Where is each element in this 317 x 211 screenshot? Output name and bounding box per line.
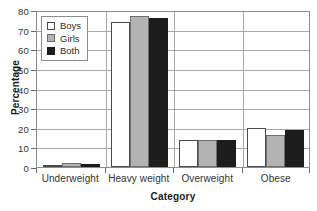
- x-axis-tick-labels: UnderweightHeavy weightOverweightObese: [36, 173, 310, 184]
- y-axis-tick-label: 70: [18, 25, 29, 36]
- bar: [149, 18, 168, 167]
- bar: [81, 164, 100, 167]
- bar: [266, 135, 285, 167]
- x-axis-tick-label: Obese: [242, 173, 311, 184]
- y-axis-tick-label: 20: [18, 123, 29, 134]
- bar-group: [241, 12, 309, 167]
- y-axis-tick-labels: 01020304050607080: [0, 11, 36, 168]
- x-axis-tick-label: Underweight: [36, 173, 105, 184]
- legend-swatch-icon: [47, 47, 55, 55]
- bar: [285, 130, 304, 167]
- legend-item: Girls: [47, 34, 81, 44]
- y-axis-tick-label: 50: [18, 64, 29, 75]
- bar-group: [105, 12, 173, 167]
- chart-legend: BoysGirlsBoth: [41, 16, 88, 61]
- y-axis-tick-label: 0: [24, 163, 29, 174]
- x-axis-title: Category: [36, 191, 310, 202]
- y-axis-tick-label: 10: [18, 143, 29, 154]
- bar: [43, 165, 62, 167]
- bar-chart: Percentage 01020304050607080 Underweight…: [0, 0, 317, 211]
- legend-item: Boys: [47, 21, 81, 31]
- bar: [111, 22, 130, 167]
- y-axis-tick-label: 40: [18, 84, 29, 95]
- bar: [198, 140, 217, 167]
- legend-label: Boys: [60, 21, 81, 31]
- x-axis-tick-label: Overweight: [173, 173, 242, 184]
- bar: [62, 163, 81, 167]
- legend-label: Girls: [60, 34, 80, 44]
- bar: [179, 140, 198, 167]
- bar-group: [173, 12, 241, 167]
- legend-swatch-icon: [47, 22, 55, 30]
- y-axis-tick-label: 30: [18, 104, 29, 115]
- x-axis-tick-label: Heavy weight: [105, 173, 174, 184]
- legend-label: Both: [60, 46, 80, 56]
- legend-item: Both: [47, 46, 81, 56]
- y-axis-tick-label: 60: [18, 45, 29, 56]
- y-axis-tick-label: 80: [18, 6, 29, 17]
- bar: [217, 140, 236, 167]
- bar: [130, 16, 149, 167]
- bar: [247, 128, 266, 167]
- legend-swatch-icon: [47, 34, 55, 42]
